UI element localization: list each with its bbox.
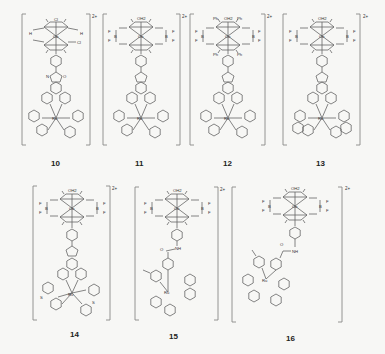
pyridine-ring (51, 55, 61, 67)
boron-label: B (45, 206, 48, 211)
right-bracket (356, 14, 360, 145)
fluorine-label: F (258, 38, 261, 43)
compound-number: 16 (286, 334, 295, 343)
fluorine-label: F (289, 38, 292, 43)
charge-label: 2+ (345, 186, 351, 191)
boron-label: B (201, 206, 204, 211)
compound-10: 2+ Cl Co H H Cl N O Ru 10 (22, 14, 98, 168)
o-label: O (63, 74, 67, 79)
axial-water-label: OH2 (68, 188, 77, 193)
fluorine-label: F (39, 201, 42, 206)
compound-number: 11 (135, 159, 144, 168)
fluorine-label: F (289, 29, 292, 34)
compound-14: 2+ OH2 Co B B F F F F Ru S S 14 (33, 186, 118, 339)
fluorine-label: F (195, 38, 198, 43)
fluorine-label: F (262, 208, 265, 213)
right-bracket (86, 14, 90, 145)
phenyl-label: Ph (213, 16, 219, 21)
axial-water-label: OH2 (224, 16, 233, 21)
compound-13: 2+ OH2 Co B B F F F F Ru 13 (283, 14, 369, 168)
charge-label: 2+ (92, 14, 98, 19)
axial-water-label: OH2 (137, 16, 146, 21)
hydrogen-label: H (80, 31, 83, 36)
fluorine-label: F (108, 38, 111, 43)
left-bracket (22, 14, 26, 145)
compound-12: 2+ OH2 Ph Ph Ph Ph Co B B F F F F Ru 12 (190, 14, 273, 168)
ruthenium-label: Ru (262, 278, 268, 283)
fluorine-label: F (262, 199, 265, 204)
fluorine-label: F (208, 210, 211, 215)
fluorine-label: F (103, 201, 106, 206)
boron-label: B (114, 34, 117, 39)
ruthenium-label: Ru (52, 116, 58, 121)
compound-15: 2+ OH2 Co B B F F F F NH O Ru 15 (135, 187, 226, 341)
fluorine-label: F (258, 29, 261, 34)
oxazole-ring (50, 72, 62, 82)
right-bracket (176, 14, 180, 145)
cobalt-label: Co (53, 34, 59, 39)
left-bracket (190, 14, 194, 145)
boron-label: B (165, 34, 168, 39)
cobalt-label: Co (69, 206, 75, 211)
compound-number: 14 (70, 330, 79, 339)
boron-label: B (252, 34, 255, 39)
right-bracket (106, 186, 110, 320)
compound-16: 2+ OH2 Co B B F F F F NH O Ru 16 (232, 186, 351, 343)
cobalt-label: Co (292, 204, 298, 209)
compound-11: 2+ OH2 Co B B F F F F Ru 11 (103, 14, 188, 168)
fluorine-label: F (353, 29, 356, 34)
axial-water-label: OH2 (291, 186, 300, 191)
compound-number: 13 (316, 159, 325, 168)
n-label: N (46, 74, 49, 79)
sulfur-label: S (40, 295, 43, 300)
phenyl-label: Ph (237, 52, 243, 57)
compound-number: 15 (169, 332, 178, 341)
phenyl-label: Ph (213, 52, 219, 57)
fluorine-label: F (144, 201, 147, 206)
charge-label: 2+ (363, 14, 369, 19)
amide-nh-label: NH (292, 249, 298, 254)
phenyl-label: Ph (237, 16, 243, 21)
fluorine-label: F (39, 210, 42, 215)
carbonyl-o-label: O (280, 242, 284, 247)
left-bracket (33, 186, 37, 320)
chemical-structures-figure: 2+ Cl Co H H Cl N O Ru 10 2+ OH2 Co B B … (0, 0, 385, 354)
axial-cl-label: Cl (54, 17, 58, 22)
fluorine-label: F (195, 29, 198, 34)
sulfur-label: S (92, 300, 95, 305)
right-bracket (214, 187, 218, 320)
boron-label: B (295, 34, 298, 39)
boron-label: B (268, 204, 271, 209)
ruthenium-label: Ru (137, 116, 143, 121)
fluorine-label: F (103, 210, 106, 215)
axial-water-label: OH2 (318, 16, 327, 21)
ruthenium-label: Ru (224, 116, 230, 121)
boron-label: B (319, 204, 322, 209)
charge-label: 2+ (220, 187, 226, 192)
right-bracket (261, 14, 265, 145)
cobalt-label: Co (225, 34, 231, 39)
hydrogen-label: H (29, 31, 32, 36)
ruthenium-label: Ru (164, 290, 170, 295)
carbonyl-o-label: O (160, 247, 164, 252)
left-bracket (232, 187, 236, 322)
boron-label: B (346, 34, 349, 39)
compound-number: 10 (51, 159, 60, 168)
cobalt-label: Co (319, 34, 325, 39)
fluorine-label: F (326, 208, 329, 213)
charge-label: 2+ (112, 186, 118, 191)
ruthenium-label: Ru (318, 116, 324, 121)
left-bracket (135, 187, 139, 320)
fluorine-label: F (172, 29, 175, 34)
chloro-label: Cl (77, 40, 81, 45)
ru-polypyridyl-unit (29, 82, 83, 138)
fluorine-label: F (326, 199, 329, 204)
left-bracket (283, 14, 287, 145)
left-bracket (103, 14, 107, 145)
right-bracket (338, 187, 342, 322)
charge-label: 2+ (182, 14, 188, 19)
cobalt-label: Co (138, 34, 144, 39)
axial-water-label: OH2 (173, 188, 182, 193)
fluorine-label: F (144, 210, 147, 215)
fluorine-label: F (353, 38, 356, 43)
